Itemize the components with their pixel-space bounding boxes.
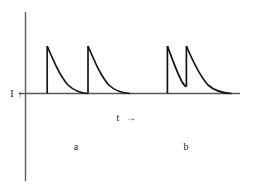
pulse-a1-decay [47,46,87,94]
pulse-plot-svg: I ↑ t → a b [0,0,253,194]
group-label-b: b [184,141,189,152]
pulse-a2-decay [88,46,130,94]
figure-root: I ↑ t → a b [0,0,253,194]
y-axis-label: I [10,88,13,99]
x-axis-arrow-icon: → [126,112,136,123]
y-axis-arrow-icon: ↑ [18,89,23,100]
pulse-b1-decay [167,46,186,87]
group-label-a: a [74,141,79,152]
x-axis-label: t [117,112,120,123]
pulse-b2-decay [186,46,231,94]
